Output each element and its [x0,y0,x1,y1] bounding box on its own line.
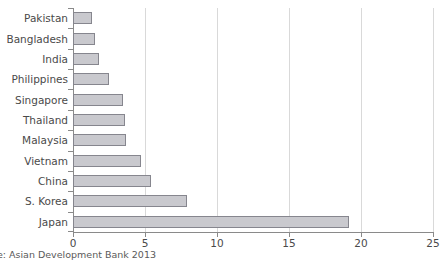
category-label-thailand: Thailand [0,115,68,126]
bar-row [73,212,433,232]
value-tick-label-25: 25 [426,238,439,249]
bar-philippines [73,73,109,85]
bar-malaysia [73,134,126,146]
category-label-singapore: Singapore [0,94,68,105]
plot-area [73,8,433,232]
bar-s-korea [73,195,187,207]
bar-row [73,130,433,150]
category-label-india: India [0,54,68,65]
bar-row [73,8,433,28]
bar-vietnam [73,155,141,167]
bar-series [73,8,433,232]
bar-row [73,28,433,48]
bar-singapore [73,94,123,106]
category-label-china: China [0,176,68,187]
bar-row [73,151,433,171]
bar-row [73,110,433,130]
bar-bangladesh [73,33,95,45]
bar-row [73,89,433,109]
category-label-malaysia: Malaysia [0,135,68,146]
bar-india [73,53,99,65]
bar-row [73,171,433,191]
bar-row [73,69,433,89]
category-label-japan: Japan [0,217,68,228]
bar-japan [73,216,349,228]
bar-row [73,49,433,69]
bar-china [73,175,151,187]
bar-row [73,191,433,211]
value-tick-label-0: 0 [70,238,77,249]
source-note: rce: Asian Development Bank 2013 [0,250,156,260]
category-label-vietnam: Vietnam [0,155,68,166]
value-tick-label-5: 5 [142,238,149,249]
value-axis-ticks [73,232,433,237]
value-tick-label-10: 10 [210,238,223,249]
category-label-philippines: Philippines [0,74,68,85]
bar-pakistan [73,12,92,24]
category-label-bangladesh: Bangladesh [0,33,68,44]
category-label-pakistan: Pakistan [0,13,68,24]
category-label-s-korea: S. Korea [0,196,68,207]
value-tick-label-15: 15 [282,238,295,249]
gridline-25 [433,8,434,232]
bar-thailand [73,114,125,126]
value-tick-label-20: 20 [354,238,367,249]
category-axis-labels: PakistanBangladeshIndiaPhilippinesSingap… [0,8,68,232]
